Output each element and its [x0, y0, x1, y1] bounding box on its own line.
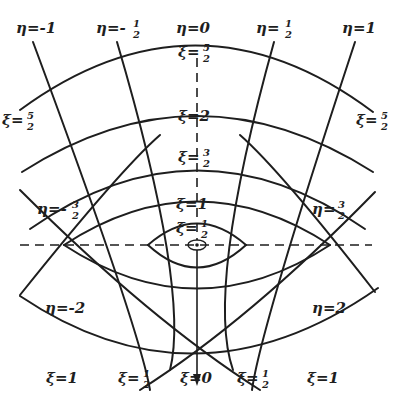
label-xi-5-2-right-den: 2: [380, 121, 388, 132]
label-xi-3-2: ξ=: [178, 148, 199, 166]
label-xi-1-center: ξ=1: [176, 195, 208, 213]
label-xi-3-2-num: 3: [203, 147, 210, 158]
label-eta-m-half-den: 2: [132, 29, 140, 40]
label-xi-1-left: ξ=1: [46, 369, 78, 387]
label-eta-m-half: η=-: [96, 19, 126, 37]
label-eta-half-num: 1: [285, 18, 292, 29]
label-xi-5-2-top-num: 5: [203, 42, 210, 53]
label-eta-3-2-den: 2: [337, 210, 345, 221]
label-eta-3-2: η=: [312, 200, 335, 218]
label-xi-1-2-right-num: 1: [262, 368, 269, 379]
label-xi-5-2-left-den: 2: [26, 121, 34, 132]
label-xi-1-2-left-den: 2: [142, 379, 150, 390]
eta-half-curve: [225, 42, 274, 370]
label-xi-2: ξ=2: [178, 107, 210, 125]
label-xi-5-2-top: ξ=: [178, 43, 199, 61]
label-eta-m3-2-num: 3: [72, 199, 79, 210]
label-xi-5-2-top-den: 2: [202, 53, 210, 64]
label-xi-1-2-right: ξ=: [237, 369, 258, 387]
label-xi-1-2-center-num: 1: [201, 218, 208, 229]
label-eta-m3-2: η=-: [37, 200, 67, 218]
label-xi-1-2-right-den: 2: [261, 379, 269, 390]
parabolic-coordinates-diagram: η=-1 η=- 1 2 η=0 η= 1 2 η=1 ξ= 5 2 ξ=2 ξ…: [0, 0, 401, 395]
label-xi-3-2-den: 2: [202, 158, 210, 169]
label-xi-1-right: ξ=1: [307, 369, 339, 387]
label-eta-m3-2-den: 2: [71, 210, 79, 221]
label-xi-1-2-left-num: 1: [143, 368, 150, 379]
label-xi-1-2-center-den: 2: [200, 229, 208, 240]
label-xi-5-2-right: ξ=: [356, 111, 377, 129]
label-xi-5-2-right-num: 5: [381, 110, 388, 121]
label-eta-half: η=: [256, 19, 279, 37]
label-eta-m2: η=-2: [45, 299, 85, 317]
label-xi-1-2-center: ξ=: [176, 219, 197, 237]
label-eta-m-half-num: 1: [133, 18, 140, 29]
label-xi-1-2-left: ξ=: [118, 369, 139, 387]
eta-2-bottom-curve: [20, 288, 378, 354]
eta-m3-2-curve: [20, 190, 260, 390]
diagram-canvas: η=-1 η=- 1 2 η=0 η= 1 2 η=1 ξ= 5 2 ξ=2 ξ…: [0, 0, 401, 395]
focus-point: [195, 243, 199, 247]
label-eta-3-2-num: 3: [338, 199, 345, 210]
label-eta-0: η=0: [176, 19, 210, 37]
label-eta-half-den: 2: [284, 29, 292, 40]
label-xi-5-2-left-num: 5: [27, 110, 34, 121]
label-xi-0: ξ=0: [180, 369, 212, 387]
label-xi-5-2-left: ξ=: [2, 111, 23, 129]
label-eta-2: η=2: [312, 299, 346, 317]
label-eta-m1: η=-1: [16, 19, 56, 37]
label-eta-1: η=1: [342, 19, 376, 37]
